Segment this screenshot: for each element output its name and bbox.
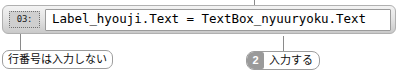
leader-line-to-input-step: [283, 36, 284, 51]
callout-line-number-note: 行番号は入力しない: [2, 50, 113, 69]
code-input-field[interactable]: Label_hyouji.Text = TextBox_nyuuryoku.Te…: [45, 9, 391, 31]
code-text: Label_hyouji.Text = TextBox_nyuuryoku.Te…: [52, 13, 366, 26]
step-number-badge: 2: [247, 52, 264, 69]
line-number-chip: 03:: [9, 11, 40, 28]
code-line-bar: 03: Label_hyouji.Text = TextBox_nyuuryok…: [2, 5, 396, 34]
leader-line-to-line-number-note: [20, 33, 21, 50]
callout-line-number-label: 行番号は入力しない: [8, 54, 107, 65]
callout-input-label: 入力する: [269, 55, 313, 66]
callout-input-step: 2 入力する: [246, 51, 320, 70]
